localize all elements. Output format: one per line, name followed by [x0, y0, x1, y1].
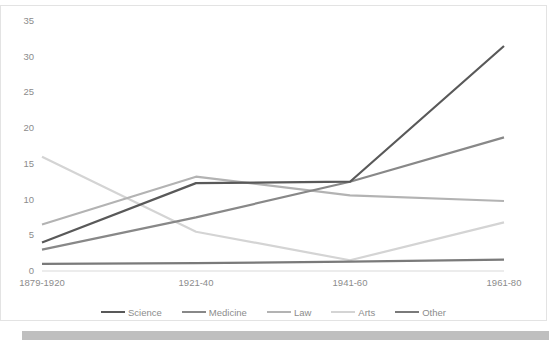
y-axis-tick-label: 0 [29, 266, 34, 276]
series-canvas [42, 21, 504, 271]
legend-label: Medicine [209, 307, 247, 318]
bottom-scroll-bar[interactable] [22, 331, 549, 340]
x-axis-category-label: 1921-40 [179, 277, 214, 289]
y-axis-tick-label: 35 [23, 16, 34, 26]
legend-label: Law [294, 307, 311, 318]
legend-label: Other [422, 307, 446, 318]
y-axis-tick-label: 10 [23, 195, 34, 205]
legend-swatch-icon [395, 311, 419, 313]
x-axis-category-label: 1879-1920 [19, 277, 64, 289]
legend-item-law[interactable]: Law [267, 307, 311, 318]
y-axis-tick-label: 15 [23, 159, 34, 169]
y-axis-tick-label: 5 [29, 230, 34, 240]
legend-item-medicine[interactable]: Medicine [182, 307, 247, 318]
legend-swatch-icon [267, 311, 291, 313]
y-axis-labels: 05101520253035 [0, 0, 42, 292]
legend-label: Science [128, 307, 162, 318]
chart-legend: ScienceMedicineLawArtsOther [0, 303, 547, 321]
y-axis-tick-label: 25 [23, 87, 34, 97]
legend-item-other[interactable]: Other [395, 307, 446, 318]
series-line-arts [42, 157, 504, 261]
plot-area [42, 21, 504, 271]
legend-item-arts[interactable]: Arts [331, 307, 375, 318]
series-line-other [42, 260, 504, 264]
y-axis-tick-label: 20 [23, 123, 34, 133]
legend-label: Arts [358, 307, 375, 318]
y-axis-tick-label: 30 [23, 52, 34, 62]
legend-item-science[interactable]: Science [101, 307, 162, 318]
chart-screenshot: 05101520253035 1879-19201921-401941-6019… [0, 0, 549, 346]
x-axis-category-label: 1961-80 [487, 277, 522, 289]
legend-swatch-icon [331, 311, 355, 313]
legend-swatch-icon [182, 311, 206, 313]
x-axis-category-label: 1941-60 [333, 277, 368, 289]
legend-swatch-icon [101, 311, 125, 313]
series-line-science [42, 46, 504, 242]
x-axis-labels: 1879-19201921-401941-601961-80 [42, 277, 504, 293]
series-line-medicine [42, 137, 504, 249]
